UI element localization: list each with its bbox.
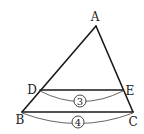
vertex-label-d: D <box>27 83 37 97</box>
vertex-label-b: B <box>16 113 25 127</box>
triangle-diagram: 3 4 A D E B C <box>0 0 144 134</box>
measure-de-badge: 3 <box>74 95 86 107</box>
measure-bc-label: 4 <box>75 117 81 128</box>
measure-bc-badge: 4 <box>72 116 84 128</box>
vertex-label-e: E <box>126 84 135 98</box>
vertex-label-a: A <box>90 10 100 24</box>
measure-de-label: 3 <box>77 96 83 107</box>
vertex-label-c: C <box>128 115 137 129</box>
